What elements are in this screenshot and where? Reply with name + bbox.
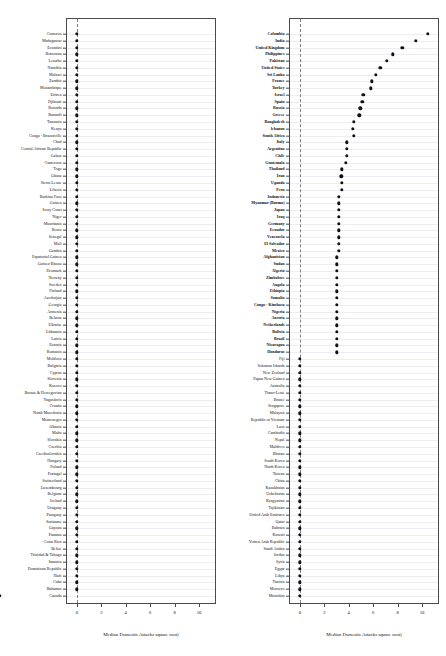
y-axis-tick xyxy=(63,34,66,35)
y-axis-tick xyxy=(286,271,289,272)
y-axis-tick xyxy=(286,196,289,197)
category-label: Mauritania xyxy=(44,222,62,226)
category-label: Saudi Arabia xyxy=(263,547,284,551)
category-label: Chile xyxy=(275,154,284,158)
gridline xyxy=(67,244,215,245)
y-axis-tick xyxy=(63,372,66,373)
category-label: lebanon xyxy=(271,127,285,131)
gridline xyxy=(290,433,438,434)
gridline xyxy=(290,508,438,509)
gridline xyxy=(290,102,438,103)
y-axis-tick xyxy=(286,548,289,549)
x-axis-tick-label: 8 xyxy=(173,610,175,615)
y-axis-tick xyxy=(286,284,289,285)
y-axis-tick xyxy=(286,501,289,502)
gridline xyxy=(290,373,438,374)
y-axis-tick xyxy=(286,61,289,62)
y-axis-tick xyxy=(63,575,66,576)
y-axis-tick xyxy=(286,474,289,475)
x-axis-tick xyxy=(349,604,350,607)
gridline xyxy=(290,115,438,116)
category-label: Bahrain xyxy=(272,526,285,530)
gridline xyxy=(67,251,215,252)
category-label: Papua New Guinea xyxy=(253,377,284,381)
gridline xyxy=(290,318,438,319)
category-label: Yugoslavia xyxy=(44,398,62,402)
y-axis-tick xyxy=(63,514,66,515)
gridline xyxy=(67,68,215,69)
x-axis-tick-label: 0 xyxy=(76,610,78,615)
y-axis-tick xyxy=(63,183,66,184)
category-label: Syria xyxy=(276,560,285,564)
y-axis-tick xyxy=(286,393,289,394)
y-axis-tick xyxy=(286,359,289,360)
gridline xyxy=(67,379,215,380)
category-label: Ivory Coast xyxy=(43,208,62,212)
y-axis-tick xyxy=(63,40,66,41)
gridline xyxy=(67,528,215,529)
y-axis-tick xyxy=(286,535,289,536)
category-label: Czechia xyxy=(48,445,61,449)
category-label: Switzerland xyxy=(42,479,61,483)
y-axis-tick xyxy=(63,128,66,129)
gridline xyxy=(290,332,438,333)
y-axis-tick xyxy=(63,291,66,292)
y-axis-tick xyxy=(286,169,289,170)
gridline xyxy=(290,230,438,231)
gridline xyxy=(290,345,438,346)
category-label: Nigeria xyxy=(272,310,285,314)
category-label: Chad xyxy=(53,140,62,144)
gridline xyxy=(67,359,215,360)
gridline xyxy=(67,427,215,428)
category-label: Cambodia xyxy=(268,431,285,435)
gridline xyxy=(290,108,438,109)
y-axis-tick xyxy=(63,467,66,468)
y-axis-tick xyxy=(286,81,289,82)
category-label: Mozambique xyxy=(40,86,61,90)
x-axis-tick xyxy=(398,604,399,607)
gridline xyxy=(67,494,215,495)
category-label: Uruguay xyxy=(47,506,61,510)
category-label: Qatar xyxy=(276,519,285,523)
gridline xyxy=(67,400,215,401)
category-label: Republic of Vietnam xyxy=(251,418,285,422)
category-label: Romania xyxy=(47,350,62,354)
y-axis-tick xyxy=(63,210,66,211)
y-axis-tick xyxy=(63,264,66,265)
y-axis-tick xyxy=(63,325,66,326)
x-axis-tick xyxy=(199,604,200,607)
gridline xyxy=(290,461,438,462)
gridline xyxy=(67,386,215,387)
y-axis-tick xyxy=(63,386,66,387)
gridline xyxy=(67,332,215,333)
y-axis-tick xyxy=(286,318,289,319)
gridline xyxy=(290,501,438,502)
gridline xyxy=(290,515,438,516)
gridline xyxy=(290,129,438,130)
gridline xyxy=(290,447,438,448)
gridline xyxy=(290,596,438,597)
y-axis-tick xyxy=(286,555,289,556)
x-axis-tick-label: 6 xyxy=(149,610,151,615)
category-label: Ireland xyxy=(50,499,61,503)
gridline xyxy=(67,345,215,346)
y-axis-tick xyxy=(286,338,289,339)
y-axis-tick xyxy=(286,399,289,400)
category-label: Gabon xyxy=(51,154,62,158)
gridline xyxy=(67,34,215,35)
y-axis-tick xyxy=(286,575,289,576)
gridline xyxy=(67,203,215,204)
y-axis-tick xyxy=(286,210,289,211)
category-label: Cuba xyxy=(53,580,62,584)
y-axis-tick xyxy=(63,162,66,163)
gridline xyxy=(290,569,438,570)
y-axis-tick xyxy=(63,528,66,529)
category-label: Greece xyxy=(272,113,284,117)
category-label: Argentina xyxy=(267,147,285,151)
y-axis-tick xyxy=(286,54,289,55)
category-label: Bhutan xyxy=(273,452,285,456)
figure-root: ComorosMadagascarEswatiniBotswanaLesotho… xyxy=(0,0,446,656)
gridline xyxy=(67,224,215,225)
category-label: Mali xyxy=(54,242,62,246)
category-label: Fiji xyxy=(279,357,285,361)
